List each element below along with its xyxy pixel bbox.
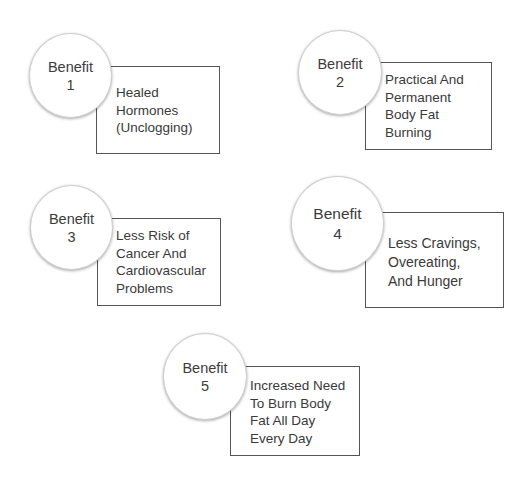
benefit-4-number: 4 [333,224,342,244]
benefit-1-line-1: Healed [116,84,193,102]
benefit-3-number: 3 [67,228,75,246]
benefit-3-line-2: Cancer And [116,245,206,263]
benefit-5-line-2: To Burn Body [250,395,345,413]
benefit-3-label: Benefit [49,210,94,228]
benefit-5-line-1: Increased Need [250,377,345,395]
benefit-3-line-4: Problems [116,280,206,298]
benefit-3-line-3: Cardiovascular [116,262,206,280]
benefit-4-line-2: Overeating, [388,253,481,272]
benefit-3-text: Less Risk of Cancer And Cardiovascular P… [116,227,206,297]
benefit-5-line-4: Every Day [250,430,345,448]
benefit-3-circle: Benefit 3 [30,185,113,270]
benefit-2-text: Practical And Permanent Body Fat Burning [385,71,464,141]
benefit-4-text: Less Cravings, Overeating, And Hunger [388,234,481,291]
benefit-1-label: Benefit [48,58,93,76]
benefit-2-circle: Benefit 2 [298,30,382,115]
benefit-2-line-2: Permanent [385,89,464,107]
benefit-4-circle: Benefit 4 [291,176,384,271]
benefit-4-line-1: Less Cravings, [388,234,481,253]
benefit-1-number: 1 [66,76,74,94]
benefit-2-line-3: Body Fat [385,106,464,124]
benefit-2-line-1: Practical And [385,71,464,89]
benefit-1-line-3: (Unclogging) [116,119,193,137]
benefit-1-line-2: Hormones [116,102,193,120]
benefit-2-line-4: Burning [385,124,464,142]
benefit-5-line-3: Fat All Day [250,412,345,430]
benefit-4-line-3: And Hunger [388,272,481,291]
benefit-1-text: Healed Hormones (Unclogging) [116,84,193,137]
benefit-5-label: Benefit [182,359,227,377]
benefit-3-line-1: Less Risk of [116,227,206,245]
benefit-4-label: Benefit [313,204,361,224]
benefit-5-text: Increased Need To Burn Body Fat All Day … [250,377,345,447]
benefit-2-number: 2 [336,73,344,91]
benefit-5-circle: Benefit 5 [163,333,247,420]
benefit-2-label: Benefit [317,55,362,73]
benefit-1-circle: Benefit 1 [29,33,112,118]
benefit-5-number: 5 [201,377,209,395]
